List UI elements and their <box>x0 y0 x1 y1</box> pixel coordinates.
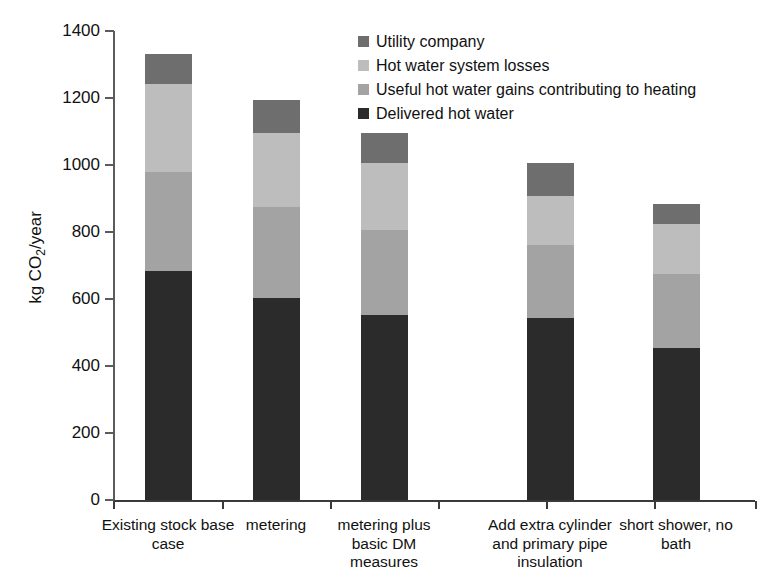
x-axis-label-2: metering <box>216 516 336 535</box>
bar-2[interactable] <box>253 31 300 500</box>
y-tick-label: 400 <box>38 357 100 374</box>
bar-segment[interactable] <box>253 298 300 500</box>
x-axis-label-line: measures <box>319 553 449 572</box>
x-axis-label-line: metering plus <box>319 516 449 535</box>
legend-swatch-icon <box>358 60 369 71</box>
y-tick-label: 200 <box>38 424 100 441</box>
x-axis-label-line: metering <box>216 516 336 535</box>
bar-segment[interactable] <box>527 163 574 196</box>
legend-swatch-icon <box>358 84 369 95</box>
y-axis-line <box>113 31 115 501</box>
x-axis-label-5: short shower, nobath <box>606 516 746 553</box>
y-tick-group: 800 <box>0 223 100 240</box>
y-tick-label: 1000 <box>38 156 100 173</box>
bar-segment[interactable] <box>653 224 700 274</box>
bar-segment[interactable] <box>653 348 700 500</box>
legend-item-1[interactable]: Utility company <box>358 30 758 53</box>
bar-segment[interactable] <box>653 204 700 224</box>
x-axis-label-line: basic DM <box>319 535 449 554</box>
y-tick-mark <box>105 231 114 233</box>
y-tick-group: 400 <box>0 357 100 374</box>
bar-1[interactable] <box>145 31 192 500</box>
x-tick-mark <box>546 501 548 509</box>
legend-item-4[interactable]: Delivered hot water <box>358 102 758 125</box>
y-tick-mark <box>105 298 114 300</box>
x-axis-label-line: case <box>84 535 252 554</box>
y-tick-mark <box>105 432 114 434</box>
x-axis-label-line: bath <box>606 535 746 554</box>
x-tick-mark <box>113 501 115 509</box>
bar-segment[interactable] <box>527 318 574 500</box>
bar-segment[interactable] <box>145 84 192 172</box>
y-tick-mark <box>105 164 114 166</box>
chart-legend: Utility companyHot water system lossesUs… <box>358 30 758 126</box>
y-tick-mark <box>105 365 114 367</box>
bar-segment[interactable] <box>653 274 700 348</box>
y-axis-title-subscript: 2 <box>34 249 48 256</box>
bar-segment[interactable] <box>361 315 408 500</box>
legend-label: Hot water system losses <box>376 57 549 74</box>
legend-item-3[interactable]: Useful hot water gains contributing to h… <box>358 78 758 101</box>
x-axis-label-3: metering plusbasic DMmeasures <box>319 516 449 572</box>
bar-segment[interactable] <box>527 245 574 318</box>
y-tick-label: 600 <box>38 290 100 307</box>
bar-segment[interactable] <box>145 172 192 271</box>
bar-segment[interactable] <box>145 271 192 500</box>
x-axis-label-line: short shower, no <box>606 516 746 535</box>
bar-segment[interactable] <box>145 54 192 84</box>
y-axis-title: kg CO2/year <box>27 178 46 338</box>
y-tick-group: 1200 <box>0 89 100 106</box>
stacked-bar-chart: kg CO2/year 1400120010008006004002000 Ex… <box>0 0 766 587</box>
y-tick-label: 1200 <box>38 89 100 106</box>
x-tick-mark <box>438 501 440 509</box>
y-tick-group: 1400 <box>0 22 100 39</box>
y-tick-mark <box>105 30 114 32</box>
y-tick-group: 600 <box>0 290 100 307</box>
bar-segment[interactable] <box>253 100 300 133</box>
y-tick-group: 0 <box>0 491 100 508</box>
legend-swatch-icon <box>358 108 369 119</box>
bar-segment[interactable] <box>253 207 300 298</box>
legend-label: Delivered hot water <box>376 105 514 122</box>
y-tick-mark <box>105 97 114 99</box>
x-tick-mark <box>654 501 656 509</box>
bar-segment[interactable] <box>253 133 300 207</box>
legend-item-2[interactable]: Hot water system losses <box>358 54 758 77</box>
y-tick-label: 1400 <box>38 22 100 39</box>
legend-label: Utility company <box>376 33 484 50</box>
y-tick-label: 0 <box>38 491 100 508</box>
x-axis-label-line: insulation <box>470 553 630 572</box>
y-tick-group: 200 <box>0 424 100 441</box>
bar-segment[interactable] <box>361 163 408 230</box>
legend-swatch-icon <box>358 36 369 47</box>
x-tick-mark <box>222 501 224 509</box>
y-tick-group: 1000 <box>0 156 100 173</box>
x-tick-mark <box>330 501 332 509</box>
caption-partial <box>8 574 748 586</box>
x-tick-mark <box>755 501 757 509</box>
bar-segment[interactable] <box>527 196 574 245</box>
legend-label: Useful hot water gains contributing to h… <box>376 81 696 98</box>
bar-segment[interactable] <box>361 230 408 315</box>
x-axis-line <box>113 500 755 502</box>
bar-segment[interactable] <box>361 133 408 162</box>
y-tick-label: 800 <box>38 223 100 240</box>
